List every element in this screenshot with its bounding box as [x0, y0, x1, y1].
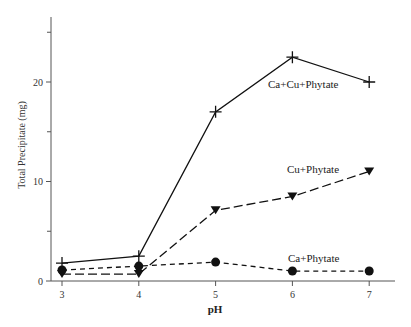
- series-ca-cu-phytate: Ca+Cu+Phytate: [56, 51, 375, 269]
- plus-marker-icon: [133, 250, 145, 262]
- x-tick-label: 7: [367, 289, 372, 300]
- series-ca-phytate: Ca+Phytate: [58, 252, 374, 276]
- y-tick-label: 20: [33, 77, 43, 88]
- series-label: Ca+Phytate: [288, 252, 340, 264]
- plus-marker-icon: [286, 51, 298, 63]
- circle-marker-icon: [134, 262, 143, 271]
- x-tick-label: 5: [213, 289, 218, 300]
- x-tick-label: 6: [290, 289, 295, 300]
- plus-marker-icon: [210, 106, 222, 118]
- circle-marker-icon: [58, 266, 67, 275]
- line-chart: 0102034567pHTotal Precipitate (mg)Ca+Cu+…: [0, 0, 411, 327]
- x-tick-label: 4: [136, 289, 141, 300]
- triangle-marker-icon: [364, 168, 374, 176]
- circle-marker-icon: [211, 258, 220, 267]
- circle-marker-icon: [288, 267, 297, 276]
- y-tick-label: 10: [33, 176, 43, 187]
- y-tick-label: 0: [38, 276, 43, 287]
- y-axis-title: Total Precipitate (mg): [16, 101, 28, 189]
- x-axis-title: pH: [208, 303, 223, 315]
- series-label: Cu+Phytate: [287, 163, 339, 175]
- x-tick-label: 3: [60, 289, 65, 300]
- circle-marker-icon: [365, 267, 374, 276]
- series-label: Ca+Cu+Phytate: [268, 78, 339, 90]
- plus-marker-icon: [363, 76, 375, 88]
